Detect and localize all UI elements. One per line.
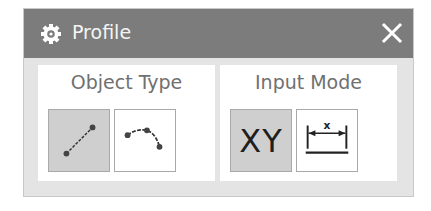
coordinate-mode-button[interactable]: XY: [230, 109, 292, 172]
parameter-icon: x: [297, 110, 357, 171]
close-icon[interactable]: [381, 22, 403, 44]
arc-icon: [115, 110, 175, 171]
line-icon: [49, 110, 109, 171]
arc-button[interactable]: [114, 109, 176, 172]
dialog-title: Profile: [72, 20, 131, 44]
object-type-group: Object Type: [38, 65, 215, 181]
parameter-mode-button[interactable]: x: [296, 109, 358, 172]
object-type-label: Object Type: [38, 69, 215, 95]
line-button[interactable]: [48, 109, 110, 172]
gear-icon: [40, 23, 62, 45]
input-mode-label: Input Mode: [220, 69, 397, 95]
svg-text:x: x: [324, 119, 331, 132]
xy-icon: XY: [231, 110, 291, 171]
profile-dialog: Profile Object Type Input Mode XY: [23, 8, 414, 197]
title-bar[interactable]: Profile: [24, 9, 413, 58]
input-mode-group: Input Mode XY x: [220, 65, 397, 181]
